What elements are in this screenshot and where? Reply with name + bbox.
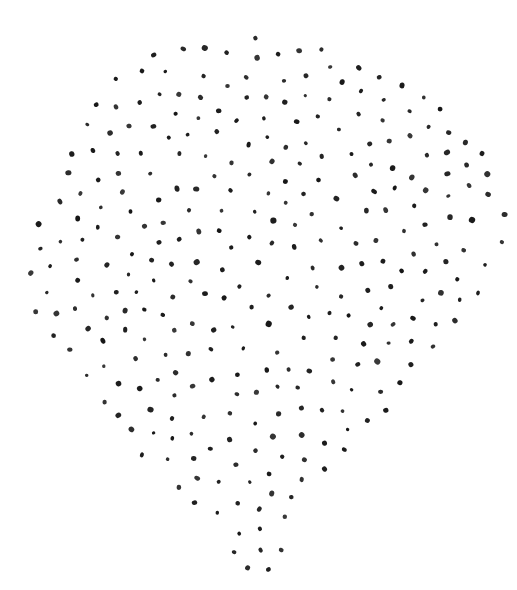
stipple-dot	[321, 440, 327, 446]
stipple-dot	[268, 158, 275, 165]
stipple-dot	[328, 65, 333, 69]
stipple-dot	[176, 485, 181, 491]
stipple-dot	[283, 515, 287, 519]
stipple-dot	[67, 347, 73, 352]
stipple-dot	[254, 54, 261, 61]
stipple-dot	[233, 462, 239, 468]
stipple-dot	[35, 220, 43, 228]
stipple-dot	[156, 197, 162, 202]
stipple-dot	[215, 511, 219, 515]
stipple-dot	[176, 236, 183, 243]
stipple-dot	[264, 367, 269, 373]
stipple-dot	[244, 95, 250, 101]
stipple-dot	[229, 245, 234, 250]
stipple-dot	[409, 315, 416, 322]
stipple-dot	[445, 130, 452, 136]
stipple-dot	[275, 384, 281, 390]
stipple-dot	[434, 242, 438, 246]
stipple-dot	[196, 116, 200, 120]
stipple-dot	[443, 149, 451, 156]
stipple-dot	[318, 47, 324, 53]
stipple-dot	[407, 361, 414, 368]
stipple-dot	[102, 364, 106, 368]
stipple-dot	[412, 203, 417, 208]
stipple-dot	[339, 226, 344, 231]
stipple-dot	[458, 297, 462, 302]
stipple-dot	[90, 147, 96, 153]
stipple-dot	[115, 171, 121, 177]
stipple-dot	[74, 257, 80, 262]
stipple-dot	[247, 172, 253, 178]
stipple-dot	[122, 307, 128, 314]
stipple-dot	[208, 376, 215, 383]
stipple-dot	[358, 88, 364, 94]
stipple-dot	[424, 152, 430, 158]
stipple-dot	[212, 173, 218, 179]
stipple-dot	[446, 194, 451, 198]
stipple-dot	[461, 248, 467, 253]
stipple-dot	[102, 400, 107, 405]
stipple-dot	[93, 102, 99, 108]
stipple-dot	[301, 456, 308, 463]
stipple-dot	[269, 432, 277, 440]
stipple-dot	[291, 244, 297, 251]
stipple-dot	[295, 385, 301, 390]
stipple-dot	[186, 351, 191, 357]
stipple-dot	[171, 327, 177, 333]
stipple-dot	[265, 135, 270, 140]
stipple-dot	[319, 153, 324, 159]
stipple-dot	[398, 268, 405, 275]
stipple-dot	[237, 531, 242, 536]
stipple-dot	[370, 188, 377, 195]
stipple-dot	[115, 150, 121, 156]
stipple-dot	[299, 476, 304, 482]
stipple-dot	[266, 471, 271, 476]
stipple-dot	[366, 321, 373, 328]
stipple-dot	[346, 313, 352, 319]
stipple-dot	[296, 48, 302, 53]
stipple-dot	[98, 205, 103, 210]
stipple-dot	[462, 139, 468, 146]
stipple-dot	[175, 91, 182, 98]
stipple-dot	[243, 74, 250, 80]
stipple-dot	[136, 385, 144, 393]
stipple-dot	[27, 269, 34, 276]
stipple-dot	[283, 179, 289, 184]
stipple-dot	[150, 52, 157, 58]
stipple-dot	[303, 73, 309, 79]
stipple-dot	[373, 238, 379, 244]
stipple-dot	[219, 208, 224, 213]
stipple-dot	[289, 495, 294, 500]
stipple-dot	[283, 200, 288, 205]
stipple-dot	[447, 214, 453, 220]
stipple-dot	[229, 160, 234, 165]
stipple-dot	[330, 379, 336, 385]
stipple-dot	[201, 44, 209, 52]
stipple-dot	[220, 294, 227, 301]
stipple-dot	[263, 94, 270, 101]
stipple-dot	[226, 436, 233, 443]
stipple-dot	[315, 114, 320, 118]
dots-layer	[27, 35, 508, 572]
stipple-dot	[408, 338, 415, 345]
stipple-dot	[303, 93, 307, 97]
stipple-dot	[364, 417, 371, 424]
stipple-dot	[443, 259, 448, 265]
stipple-dot	[319, 407, 325, 413]
stipple-dot	[147, 406, 155, 413]
stipple-dot	[257, 526, 263, 532]
stipple-dot	[191, 500, 197, 506]
stipple-dot	[406, 132, 413, 139]
stipple-dot	[454, 276, 460, 282]
stipple-dot	[364, 208, 369, 214]
stipple-dot	[360, 340, 367, 347]
stipple-dot	[208, 447, 214, 452]
stipple-dot	[231, 550, 237, 555]
stipple-dot	[292, 222, 298, 228]
stipple-dot	[365, 287, 371, 293]
stipple-dot	[338, 264, 346, 272]
stipple-dot	[420, 298, 425, 303]
stipple-dot	[57, 198, 64, 205]
stipple-dot	[201, 414, 207, 420]
stipple-dot	[33, 309, 38, 314]
